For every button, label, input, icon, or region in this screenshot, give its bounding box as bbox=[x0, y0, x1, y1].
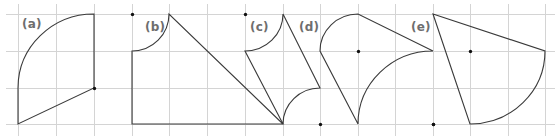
panel-label-d: (d) bbox=[299, 21, 319, 33]
panel-label-e: (e) bbox=[411, 21, 431, 33]
pivot-dot-b bbox=[131, 13, 134, 16]
diagram-svg bbox=[0, 0, 555, 136]
panel-label-c: (c) bbox=[250, 21, 269, 33]
panel-label-b: (b) bbox=[145, 21, 165, 33]
pivot-dot-a bbox=[93, 87, 96, 90]
panel-label-a: (a) bbox=[22, 18, 42, 30]
pivot-dot-e bbox=[469, 50, 472, 53]
figure-canvas: (a) (b) (c) (d) (e) bbox=[0, 0, 555, 136]
pivot-dot-c bbox=[244, 13, 247, 16]
shape-e bbox=[433, 14, 545, 124]
shapes bbox=[18, 14, 545, 124]
pivot-dot-d bbox=[319, 123, 322, 126]
pivot-dot-e bbox=[432, 123, 435, 126]
grid bbox=[6, 4, 555, 136]
pivot-dot-d bbox=[357, 50, 360, 53]
